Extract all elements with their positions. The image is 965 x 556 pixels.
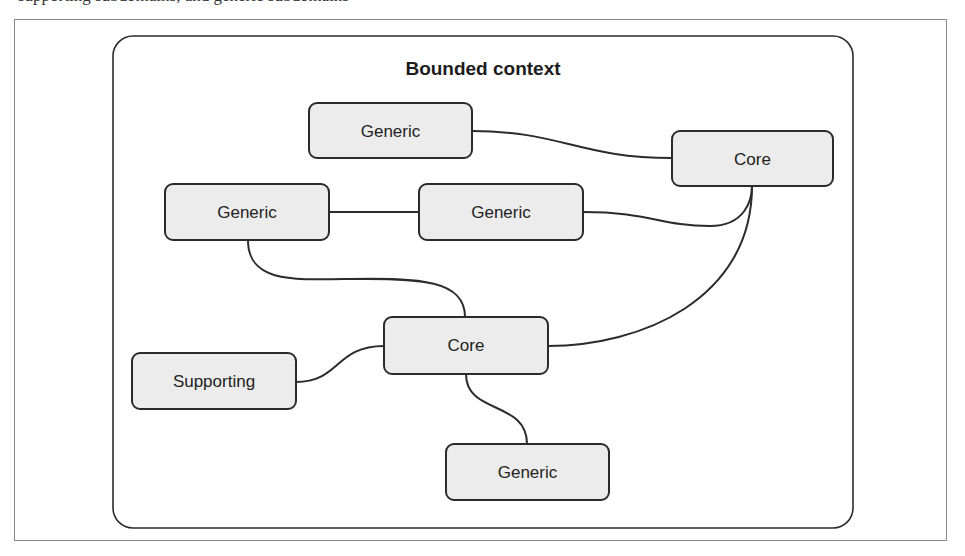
node-label: Generic: [217, 203, 277, 222]
edge-generic-middle-to-core: [583, 186, 752, 226]
node-label: Core: [448, 336, 485, 355]
node-label: Supporting: [173, 372, 255, 391]
edge-generic-top-to-core: [472, 131, 672, 158]
node-label: Core: [734, 150, 771, 169]
edge-generic-left-to-core-center: [248, 240, 465, 317]
node-core-top-right[interactable]: Core: [672, 131, 833, 186]
node-generic-bottom[interactable]: Generic: [446, 444, 609, 500]
edge-supporting-to-core-center: [296, 346, 384, 382]
node-supporting[interactable]: Supporting: [132, 353, 296, 409]
node-generic-middle[interactable]: Generic: [419, 184, 583, 240]
node-generic-left[interactable]: Generic: [165, 184, 329, 240]
node-label: Generic: [361, 122, 421, 141]
node-core-center[interactable]: Core: [384, 317, 548, 374]
node-label: Generic: [471, 203, 531, 222]
bounded-context-title: Bounded context: [405, 58, 561, 79]
node-label: Generic: [498, 463, 558, 482]
bounded-context-diagram: Bounded context Generic Core Generic Gen…: [0, 0, 965, 556]
edge-core-center-to-generic-bottom: [466, 374, 527, 444]
node-generic-top[interactable]: Generic: [309, 103, 472, 158]
